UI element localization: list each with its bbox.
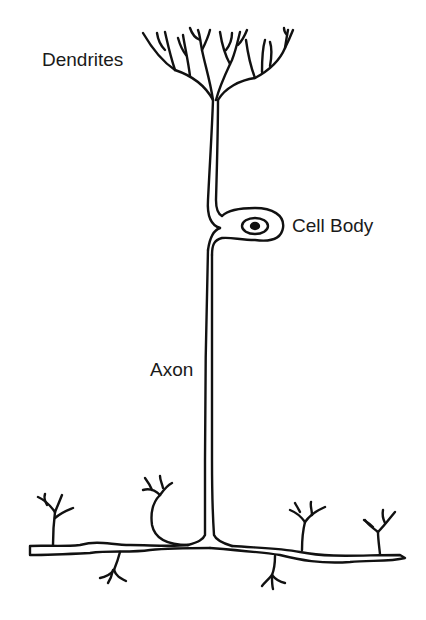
- nucleolus: [251, 223, 259, 229]
- axon-terminals: [30, 476, 405, 589]
- neuron-diagram: Dendrites Cell Body Axon: [0, 0, 426, 620]
- neuron-drawing: [0, 0, 426, 620]
- dendrites: [143, 28, 293, 228]
- axon: [188, 250, 232, 546]
